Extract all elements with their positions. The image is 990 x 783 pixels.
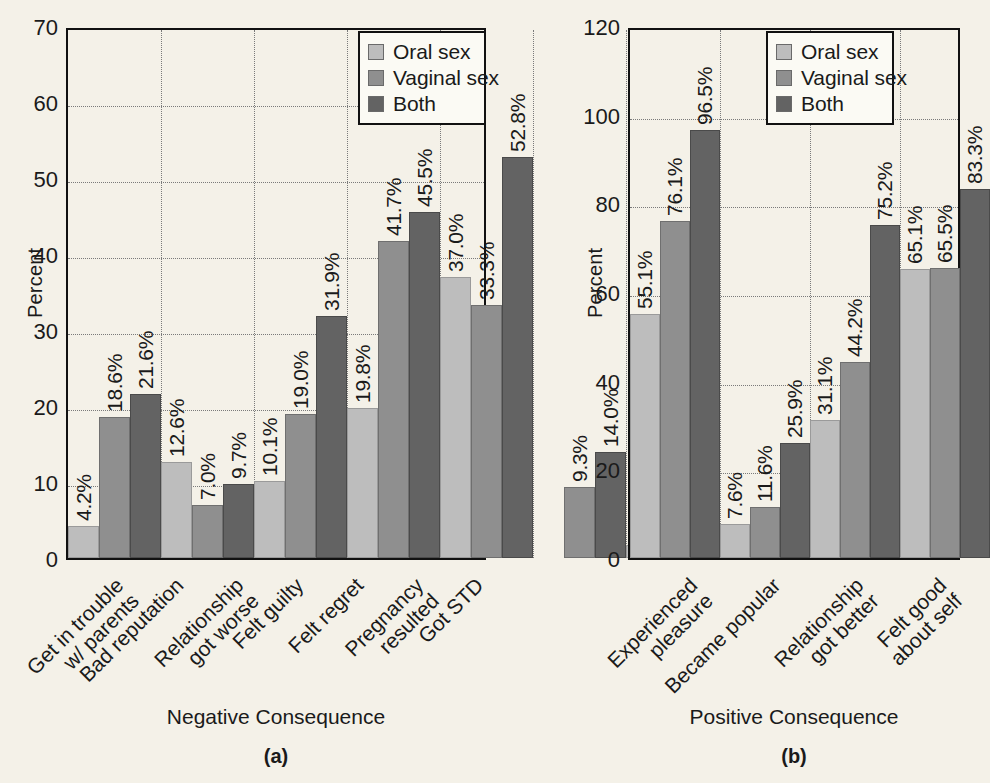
bar-value-label: 55.1%: [633, 251, 657, 309]
x-axis-ticks-a: Get in troublew/ parentsBad reputationRe…: [0, 560, 560, 561]
bar-value-label: 37.0%: [444, 214, 468, 272]
bar-both: 75.2%: [870, 225, 900, 558]
legend-item[interactable]: Oral sex: [776, 39, 880, 65]
bar-value-label: 65.5%: [933, 205, 957, 263]
legend-item[interactable]: Both: [368, 91, 472, 117]
bar-value-label: 31.9%: [320, 253, 344, 311]
bar-value-label: 25.9%: [783, 380, 807, 438]
y-tick-label: 10: [34, 471, 58, 497]
bar-value-label: 7.6%: [723, 473, 747, 520]
y-tick-label: 70: [34, 15, 58, 41]
bar-value-label: 4.2%: [72, 474, 96, 521]
panel-letter-b: (b): [628, 745, 960, 768]
bar-both: 45.5%: [409, 212, 440, 558]
bar-vaginal-sex: 76.1%: [660, 221, 690, 558]
legend-item[interactable]: Both: [776, 91, 880, 117]
bar-vaginal-sex: 41.7%: [378, 241, 409, 558]
y-tick-label: 40: [34, 243, 58, 269]
y-tick-label: 80: [596, 192, 620, 218]
legend-label: Vaginal sex: [801, 66, 907, 90]
bar-value-label: 11.6%: [753, 445, 777, 502]
bar-value-label: 76.1%: [663, 158, 687, 216]
legend-swatch-icon: [368, 96, 384, 112]
bar-vaginal-sex: 33.3%: [471, 305, 502, 558]
y-tick-label: 50: [34, 167, 58, 193]
bar-both: 83.3%: [960, 189, 990, 558]
bar-value-label: 19.8%: [351, 344, 375, 402]
bar-value-label: 65.1%: [903, 206, 927, 264]
panel-a: Percent 010203040506070 4.2%18.6%21.6%12…: [0, 0, 560, 783]
bar-group: 4.2%18.6%21.6%: [68, 30, 161, 558]
legend-label: Vaginal sex: [393, 66, 499, 90]
bar-oral-sex: 4.2%: [68, 526, 99, 558]
legend-swatch-icon: [776, 70, 792, 86]
bar-value-label: 41.7%: [382, 178, 406, 236]
bar-both: 31.9%: [316, 316, 347, 558]
panel-letter-a: (a): [66, 745, 486, 768]
y-tick-label: 100: [583, 104, 620, 130]
bar-value-label: 33.3%: [475, 242, 499, 300]
bar-group: 10.1%19.0%31.9%: [254, 30, 347, 558]
x-axis-title-b: Positive Consequence: [628, 705, 960, 729]
bar-value-label: 18.6%: [103, 354, 127, 412]
legend-swatch-icon: [368, 70, 384, 86]
bar-vaginal-sex: 18.6%: [99, 417, 130, 558]
bar-oral-sex: 12.6%: [161, 462, 192, 558]
legend-item[interactable]: Vaginal sex: [776, 65, 880, 91]
bar-vaginal-sex: 19.0%: [285, 414, 316, 558]
bar-value-label: 31.1%: [813, 357, 837, 415]
bar-value-label: 19.0%: [289, 351, 313, 409]
bar-oral-sex: 55.1%: [630, 314, 660, 558]
bar-group: 55.1%76.1%96.5%: [630, 30, 720, 558]
legend-label: Both: [801, 92, 844, 116]
bar-vaginal-sex: 44.2%: [840, 362, 870, 558]
legend-item[interactable]: Oral sex: [368, 39, 472, 65]
bar-oral-sex: 10.1%: [254, 481, 285, 558]
legend-label: Both: [393, 92, 436, 116]
bar-value-label: 45.5%: [413, 149, 437, 207]
y-tick-label: 60: [34, 91, 58, 117]
bar-value-label: 75.2%: [873, 162, 897, 220]
bar-group: 12.6%7.0%9.7%: [161, 30, 254, 558]
legend-label: Oral sex: [393, 40, 470, 64]
group-separator: [720, 30, 721, 558]
x-axis-title-a: Negative Consequence: [66, 705, 486, 729]
y-tick-label: 60: [596, 281, 620, 307]
bar-value-label: 21.6%: [134, 331, 158, 389]
bar-oral-sex: 31.1%: [810, 420, 840, 558]
bar-value-label: 10.1%: [258, 418, 282, 476]
bar-group: 65.1%65.5%83.3%: [900, 30, 990, 558]
x-axis-ticks-b: ExperiencedpleasureBecame popularRelatio…: [560, 560, 983, 561]
legend-swatch-icon: [776, 96, 792, 112]
legend-a: Oral sexVaginal sexBoth: [358, 31, 486, 125]
bar-value-label: 52.8%: [506, 94, 530, 152]
bar-oral-sex: 65.1%: [900, 269, 930, 558]
legend-item[interactable]: Vaginal sex: [368, 65, 472, 91]
group-separator: [254, 30, 255, 558]
panel-b: Percent 020406080100120 55.1%76.1%96.5%7…: [560, 0, 983, 783]
bar-value-label: 12.6%: [165, 399, 189, 457]
bar-value-label: 83.3%: [963, 126, 987, 184]
legend-label: Oral sex: [801, 40, 878, 64]
bar-both: 25.9%: [780, 443, 810, 558]
y-tick-label: 40: [596, 370, 620, 396]
y-tick-label: 20: [34, 395, 58, 421]
bar-oral-sex: 19.8%: [347, 408, 378, 558]
legend-b: Oral sexVaginal sexBoth: [766, 31, 894, 125]
y-tick-label: 120: [583, 15, 620, 41]
bar-oral-sex: 37.0%: [440, 277, 471, 558]
y-tick-label: 30: [34, 319, 58, 345]
bar-value-label: 96.5%: [693, 67, 717, 125]
bar-both: 21.6%: [130, 394, 161, 558]
group-separator: [533, 30, 534, 558]
bar-vaginal-sex: 11.6%: [750, 507, 780, 558]
bar-vaginal-sex: 7.0%: [192, 505, 223, 558]
bar-both: 96.5%: [690, 130, 720, 558]
bar-both: 52.8%: [502, 157, 533, 558]
bar-value-label: 44.2%: [843, 299, 867, 357]
legend-swatch-icon: [776, 44, 792, 60]
bar-vaginal-sex: 65.5%: [930, 268, 960, 558]
bar-value-label: 7.0%: [196, 453, 220, 500]
bar-oral-sex: 7.6%: [720, 524, 750, 558]
